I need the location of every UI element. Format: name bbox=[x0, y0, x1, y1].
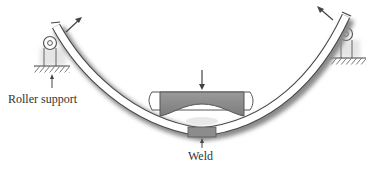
load-arrow-icon bbox=[199, 70, 205, 90]
roller-support-label: Roller support bbox=[8, 92, 77, 107]
left-reaction-arrow-icon bbox=[66, 17, 82, 32]
curved-beam-diagram bbox=[0, 0, 377, 170]
weld-label: Weld bbox=[188, 149, 213, 164]
right-reaction-arrow-icon bbox=[317, 6, 333, 20]
